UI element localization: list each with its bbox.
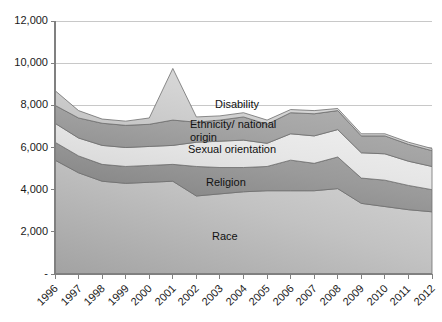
y-axis-label-4000: 4,000 [20,184,48,195]
y-axis-label-2000: 2,000 [20,226,48,237]
series-label-religion: Religion [206,176,246,188]
series-label-ethnicity: Ethnicity/ national origin [190,118,286,143]
stacked-area-chart: 12,00010,0008,0006,0004,0002,000- 199619… [0,0,442,322]
y-axis-label-10000: 10,000 [14,57,48,68]
series-label-race: Race [212,230,238,242]
y-axis-label-12000: 12,000 [14,15,48,26]
chart-plot-area [0,0,442,322]
y-axis-label-8000: 8,000 [20,99,48,110]
y-axis-label-6000: 6,000 [20,142,48,153]
series-label-sexual-orientation: Sexual orientation [188,143,276,155]
y-axis-label-0: - [44,268,48,279]
series-label-disability: Disability [215,98,259,110]
